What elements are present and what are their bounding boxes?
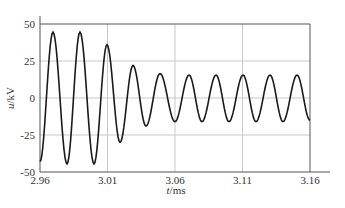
y-tick-label: 0 [30,92,36,104]
x-tick-label: 3.01 [98,174,117,186]
y-axis-tick-labels: -50-2502550 [20,18,35,178]
y-tick-label: -25 [20,129,35,141]
grid-lines [40,24,310,172]
x-axis-label: t/ms [167,184,186,196]
y-tick-label: -50 [20,166,35,178]
x-tick-label: 3.16 [300,174,320,186]
y-axis-label: u/kV [4,87,16,109]
axes [40,16,330,172]
x-tick-label: 3.11 [233,174,252,186]
voltage-waveform-chart: 2.963.013.063.113.16 -50-2502550 t/ms u/… [0,0,345,208]
y-tick-label: 50 [24,18,36,30]
y-tick-label: 25 [24,55,36,67]
